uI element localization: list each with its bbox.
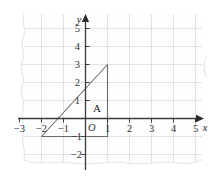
y-tick-label--2: −2 [71, 149, 82, 160]
y-axis-label: y [76, 14, 82, 25]
y-tick-label-1: 1 [75, 95, 80, 106]
y-tick-label-2: 2 [75, 77, 80, 88]
origin-label-O: O [88, 122, 96, 133]
shape-label-A: A [93, 102, 101, 114]
x-tick-label--1: −1 [58, 123, 69, 134]
coordinate-plane-svg: −3 −2 −1 1 2 3 4 5 5 4 3 2 1 −1 −2 O x y… [0, 0, 215, 184]
y-tick-label-3: 3 [75, 59, 80, 70]
x-tick-label-3: 3 [149, 123, 154, 134]
y-tick-label-4: 4 [75, 41, 81, 52]
coordinate-grid-figure: −3 −2 −1 1 2 3 4 5 5 4 3 2 1 −1 −2 O x y… [0, 0, 215, 184]
x-tick-label--3: −3 [14, 123, 25, 134]
x-tick-label-2: 2 [127, 123, 132, 134]
x-axis-label: x [202, 122, 208, 133]
y-tick-label--1: −1 [71, 131, 82, 142]
x-tick-label--2: −2 [36, 123, 47, 134]
graph-paper-sheet [14, 10, 210, 171]
x-tick-label-1: 1 [105, 123, 110, 134]
x-tick-label-4: 4 [171, 123, 177, 134]
x-tick-label-5: 5 [193, 123, 198, 134]
paper-fill [18, 10, 208, 168]
